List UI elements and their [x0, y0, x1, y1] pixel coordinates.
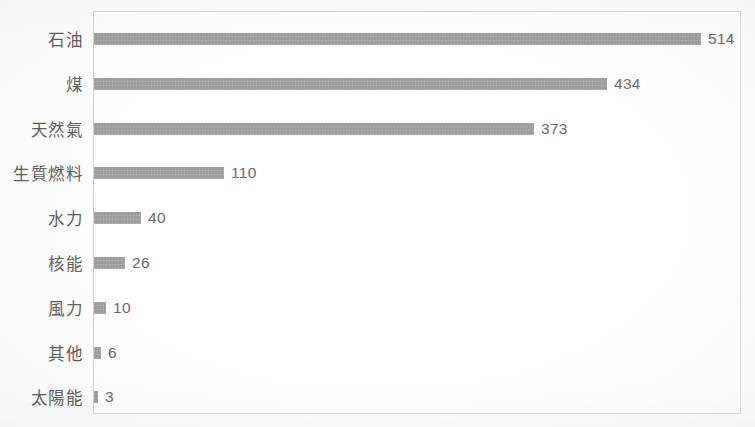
bar-row[interactable]: 石油514	[0, 24, 755, 54]
bar-and-value: 6	[94, 347, 117, 359]
bar-and-value: 3	[94, 391, 114, 403]
bar[interactable]	[94, 347, 101, 359]
bar-row[interactable]: 太陽能3	[0, 382, 755, 412]
bar[interactable]	[94, 302, 106, 314]
bar-value-label: 373	[541, 120, 568, 138]
category-label: 天然氣	[0, 117, 83, 141]
bar[interactable]	[94, 391, 98, 403]
bar-value-label: 10	[113, 299, 131, 317]
bar-and-value: 514	[94, 33, 735, 45]
bar-row[interactable]: 水力40	[0, 203, 755, 233]
bar-value-label: 40	[148, 209, 166, 227]
bar-row[interactable]: 核能26	[0, 248, 755, 278]
bar-value-label: 3	[105, 388, 114, 406]
bar-and-value: 40	[94, 212, 166, 224]
category-label: 核能	[0, 251, 83, 275]
bar[interactable]	[94, 123, 534, 135]
bar[interactable]	[94, 257, 125, 269]
bar-row[interactable]: 煤434	[0, 69, 755, 99]
category-label: 其他	[0, 341, 83, 365]
bar[interactable]	[94, 78, 607, 90]
bar-and-value: 434	[94, 78, 641, 90]
bar[interactable]	[94, 212, 141, 224]
bar-value-label: 6	[108, 344, 117, 362]
bar-and-value: 110	[94, 167, 257, 179]
category-label: 風力	[0, 296, 83, 320]
category-label: 石油	[0, 27, 83, 51]
bar-value-label: 434	[614, 75, 641, 93]
category-label: 水力	[0, 206, 83, 230]
category-label: 太陽能	[0, 385, 83, 409]
bar-value-label: 26	[132, 254, 150, 272]
bar[interactable]	[94, 33, 701, 45]
bar-row[interactable]: 生質燃料110	[0, 158, 755, 188]
category-label: 生質燃料	[0, 161, 83, 185]
category-label: 煤	[0, 72, 83, 96]
bar-row[interactable]: 其他6	[0, 338, 755, 368]
bar-row[interactable]: 天然氣373	[0, 114, 755, 144]
bar-and-value: 26	[94, 257, 150, 269]
bar-and-value: 10	[94, 302, 131, 314]
bar-row[interactable]: 風力10	[0, 293, 755, 323]
bar-value-label: 110	[231, 164, 257, 182]
category-axis-line	[93, 11, 94, 414]
bar-value-label: 514	[708, 30, 735, 48]
bar-chart: 石油514煤434天然氣373生質燃料110水力40核能26風力10其他6太陽能…	[0, 0, 755, 427]
bar-and-value: 373	[94, 123, 568, 135]
bar[interactable]	[94, 167, 224, 179]
